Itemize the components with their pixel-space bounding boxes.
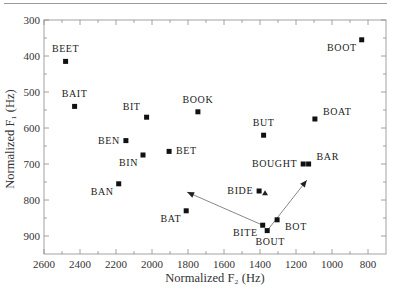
y-tick-label: 500 — [24, 86, 41, 98]
point-label: BAN — [91, 186, 114, 197]
data-point — [312, 117, 317, 122]
x-tick-label: 1600 — [213, 258, 236, 270]
data-point — [184, 208, 189, 213]
data-point — [123, 138, 128, 143]
point-label: BAR — [317, 151, 339, 162]
point-label: BET — [176, 145, 197, 156]
x-tick-label: 1800 — [177, 258, 200, 270]
y-tick-label: 800 — [24, 194, 41, 206]
point-label: BITE — [233, 227, 258, 238]
x-tick-label: 1200 — [285, 258, 308, 270]
x-tick-label: 1000 — [321, 258, 344, 270]
data-point — [261, 133, 266, 138]
point-label: BAIT — [62, 88, 88, 99]
data-point — [359, 37, 364, 42]
point-label: BIDE — [227, 185, 253, 196]
x-tick-label: 1400 — [249, 258, 272, 270]
point-label: BOT — [285, 221, 307, 232]
data-point — [167, 149, 172, 154]
data-point — [257, 189, 262, 194]
points: BEETBAITBITBOOKBENBINBETBANBATBIDEBITEBO… — [52, 37, 364, 246]
arrow-head — [300, 180, 307, 187]
point-label: BUT — [253, 117, 275, 128]
point-label: BOUT — [255, 236, 285, 247]
point-label: BOOK — [183, 94, 214, 105]
point-label: BEET — [52, 43, 79, 54]
point-label: BOOT — [327, 42, 357, 53]
y-tick-label: 300 — [24, 14, 41, 26]
data-point — [265, 228, 270, 233]
arrow-line — [187, 192, 263, 225]
point-label: BIN — [119, 157, 138, 168]
triangle-marker — [262, 190, 268, 195]
y-tick-label: 600 — [24, 122, 41, 134]
x-axis-title: Normalized F₂ (Hz) — [165, 271, 264, 285]
y-axis-title: Normalized F₁ (Hz) — [3, 89, 17, 188]
data-point — [72, 104, 77, 109]
point-label: BEN — [98, 135, 120, 146]
point-label: BAT — [160, 213, 181, 224]
data-point — [144, 115, 149, 120]
x-tick-label: 2600 — [33, 258, 56, 270]
y-tick-label: 400 — [24, 50, 41, 62]
x-tick-label: 800 — [360, 258, 377, 270]
point-label: BOAT — [323, 106, 352, 117]
chart: 2600240022002000180016001400120010008003… — [0, 0, 399, 292]
data-point — [63, 59, 68, 64]
x-tick-label: 2400 — [69, 258, 92, 270]
data-point — [141, 153, 146, 158]
data-point — [301, 162, 306, 167]
data-point — [260, 223, 265, 228]
data-point — [306, 162, 311, 167]
data-point — [116, 181, 121, 186]
y-tick-label: 900 — [24, 230, 41, 242]
data-point — [275, 217, 280, 222]
point-label: BIT — [123, 101, 141, 112]
x-tick-label: 2200 — [105, 258, 128, 270]
x-tick-label: 2000 — [141, 258, 164, 270]
plot-frame — [44, 20, 386, 254]
y-tick-label: 700 — [24, 158, 41, 170]
data-point — [195, 109, 200, 114]
point-label: BOUGHT — [252, 158, 297, 169]
